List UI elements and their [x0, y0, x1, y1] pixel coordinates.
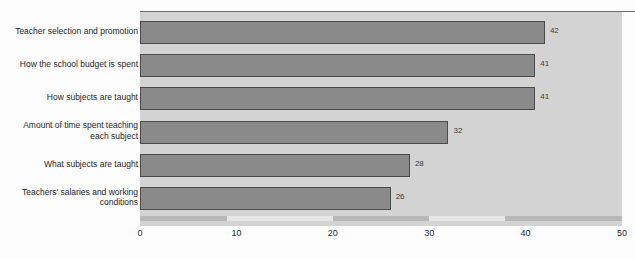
- bar-value-label: 26: [396, 192, 405, 201]
- bar[interactable]: [140, 54, 535, 77]
- bar-value-label: 42: [550, 26, 559, 35]
- bar-value-label: 32: [453, 126, 462, 135]
- plot-area: 424141322826: [140, 12, 622, 226]
- axis-segment: [333, 216, 429, 221]
- bar[interactable]: [140, 87, 535, 110]
- category-axis-labels: Teacher selection and promotionHow the s…: [0, 12, 138, 226]
- bar-row: 26: [140, 182, 622, 215]
- axis-segment: [505, 216, 622, 221]
- bar-row: 28: [140, 149, 622, 182]
- x-tick-label: 10: [231, 228, 241, 238]
- bar-value-label: 41: [540, 59, 549, 68]
- bar[interactable]: [140, 121, 448, 144]
- x-tick-label: 50: [617, 228, 627, 238]
- category-label: What subjects are taught: [4, 159, 138, 170]
- bar-value-label: 28: [415, 159, 424, 168]
- bar-value-label: 41: [540, 92, 549, 101]
- bar-row: 41: [140, 49, 622, 82]
- x-axis-tick-labels: 01020304050: [0, 228, 635, 242]
- bar[interactable]: [140, 21, 545, 44]
- bar[interactable]: [140, 187, 391, 210]
- bar-row: 32: [140, 116, 622, 149]
- category-label: Teacher selection and promotion: [4, 26, 138, 37]
- chart-screenshot: 424141322826 Teacher selection and promo…: [0, 0, 635, 259]
- bar[interactable]: [140, 154, 410, 177]
- category-label: Amount of time spent teaching each subje…: [4, 120, 138, 141]
- x-tick-label: 40: [521, 228, 531, 238]
- bar-row: 42: [140, 16, 622, 49]
- x-tick-label: 20: [328, 228, 338, 238]
- category-label: How the school budget is spent: [4, 59, 138, 70]
- axis-segment: [140, 216, 227, 221]
- axis-segment: [429, 216, 505, 221]
- x-axis-line: [140, 216, 622, 221]
- x-tick-label: 0: [137, 228, 142, 238]
- axis-segment: [227, 216, 333, 221]
- bar-row: 41: [140, 82, 622, 115]
- x-tick-label: 30: [424, 228, 434, 238]
- category-label: Teachers' salaries and working condition…: [4, 187, 138, 208]
- category-label: How subjects are taught: [4, 92, 138, 103]
